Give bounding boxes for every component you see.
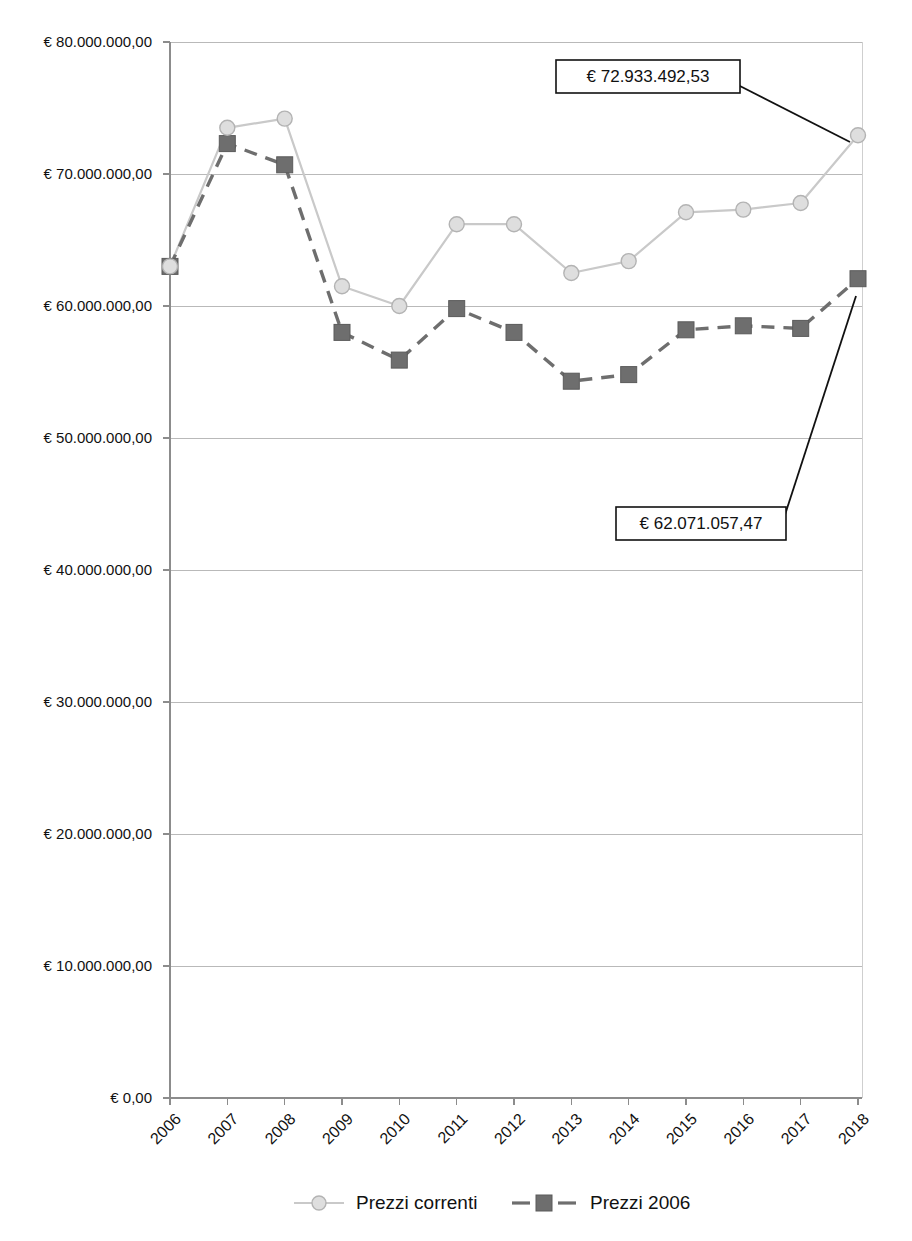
legend: Prezzi correnti Prezzi 2006 <box>294 1192 690 1213</box>
data-point-marker <box>391 352 407 368</box>
x-tick-labels: 2006200720082009201020112012201320142015… <box>147 1110 872 1147</box>
y-tick-label: € 80.000.000,00 <box>44 33 152 50</box>
data-point-marker <box>851 128 866 143</box>
y-tick-label: € 40.000.000,00 <box>44 561 152 578</box>
callout-label-current: € 72.933.492,53 <box>587 67 710 86</box>
legend-item-prezzi-correnti[interactable]: Prezzi correnti <box>294 1192 477 1213</box>
series-plot-area <box>162 111 866 389</box>
x-tick-label: 2014 <box>606 1110 643 1147</box>
data-point-marker <box>563 373 579 389</box>
callout-annotation-current: € 72.933.492,53 <box>556 60 850 142</box>
series-line-prezzi-correnti <box>170 119 858 306</box>
data-point-marker <box>506 324 522 340</box>
x-tick-label: 2018 <box>835 1110 872 1147</box>
legend-marker-square-icon <box>536 1195 552 1211</box>
x-tick-label: 2011 <box>434 1110 470 1146</box>
gridlines <box>170 42 862 966</box>
line-chart: € 0,00€ 10.000.000,00€ 20.000.000,00€ 30… <box>0 0 912 1241</box>
chart-container: € 0,00€ 10.000.000,00€ 20.000.000,00€ 30… <box>0 0 912 1241</box>
x-tick-label: 2016 <box>720 1110 757 1147</box>
data-point-marker <box>793 196 808 211</box>
x-tick-label: 2007 <box>204 1110 241 1147</box>
data-point-marker <box>334 324 350 340</box>
y-tick-labels: € 0,00€ 10.000.000,00€ 20.000.000,00€ 30… <box>44 33 152 1106</box>
y-tick-label: € 50.000.000,00 <box>44 429 152 446</box>
data-point-marker <box>678 322 694 338</box>
legend-label-prezzi-2006: Prezzi 2006 <box>590 1192 690 1213</box>
callout-label-base: € 62.071.057,47 <box>640 514 763 533</box>
x-tick-label: 2009 <box>319 1110 356 1147</box>
legend-label-prezzi-correnti: Prezzi correnti <box>356 1192 477 1213</box>
data-point-marker <box>392 299 407 314</box>
x-tick-label: 2008 <box>262 1110 299 1147</box>
data-point-marker <box>277 111 292 126</box>
legend-marker-circle-icon <box>312 1196 326 1210</box>
data-point-marker <box>564 266 579 281</box>
x-tick-label: 2006 <box>147 1110 184 1147</box>
x-tick-marks <box>170 1098 858 1105</box>
data-point-marker <box>220 120 235 135</box>
data-point-marker <box>335 279 350 294</box>
y-tick-label: € 30.000.000,00 <box>44 693 152 710</box>
y-tick-marks <box>163 42 170 1098</box>
y-tick-label: € 70.000.000,00 <box>44 165 152 182</box>
data-point-marker <box>736 202 751 217</box>
data-point-marker <box>621 254 636 269</box>
x-axis <box>170 1098 862 1105</box>
data-point-marker <box>793 320 809 336</box>
data-point-marker <box>621 367 637 383</box>
data-point-marker <box>277 157 293 173</box>
data-point-marker <box>735 318 751 334</box>
data-point-marker <box>679 205 694 220</box>
x-tick-label: 2017 <box>778 1110 815 1147</box>
data-point-marker <box>449 217 464 232</box>
series-markers-prezzi-correnti <box>163 111 866 313</box>
callout-leader-line-current <box>736 84 850 142</box>
y-tick-label: € 20.000.000,00 <box>44 825 152 842</box>
data-point-marker <box>449 301 465 317</box>
y-tick-label: € 60.000.000,00 <box>44 297 152 314</box>
y-tick-label: € 0,00 <box>110 1089 152 1106</box>
y-tick-label: € 10.000.000,00 <box>44 957 152 974</box>
data-point-marker <box>507 217 522 232</box>
x-tick-label: 2015 <box>663 1110 700 1147</box>
legend-item-prezzi-2006[interactable]: Prezzi 2006 <box>512 1192 690 1213</box>
series-line-prezzi-2006 <box>170 144 858 382</box>
x-tick-label: 2012 <box>491 1110 528 1147</box>
y-axis <box>163 42 170 1098</box>
data-point-marker <box>163 259 178 274</box>
data-point-marker <box>850 271 866 287</box>
x-tick-label: 2013 <box>548 1110 585 1147</box>
data-point-marker <box>219 136 235 152</box>
x-tick-label: 2010 <box>376 1110 413 1147</box>
